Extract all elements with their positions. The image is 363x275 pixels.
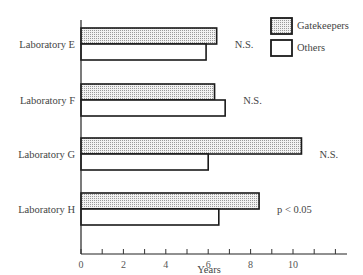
others-bar — [81, 209, 219, 225]
legend-label: Gatekeepers — [297, 20, 349, 31]
category-label: Laboratory H — [18, 204, 75, 215]
gatekeepers-bar — [81, 28, 217, 44]
bar-group: Laboratory GN.S. — [18, 138, 338, 170]
bar-group: Laboratory EN.S. — [19, 28, 253, 60]
category-label: Laboratory G — [18, 149, 75, 160]
significance-annotation: p < 0.05 — [277, 204, 312, 215]
x-tick-label: 2 — [121, 259, 126, 270]
x-tick-label: 8 — [248, 259, 253, 270]
others-bar — [81, 154, 208, 170]
bar-group: Laboratory Hp < 0.05 — [18, 193, 312, 225]
others-bar — [81, 44, 206, 60]
bar-chart: Laboratory EN.S.Laboratory FN.S.Laborato… — [0, 0, 363, 275]
bar-group: Laboratory FN.S. — [20, 84, 262, 116]
significance-annotation: N.S. — [319, 149, 338, 160]
category-label: Laboratory E — [19, 39, 75, 50]
significance-annotation: N.S. — [235, 39, 254, 50]
x-axis-title: Years — [197, 264, 220, 275]
legend-label: Others — [297, 42, 325, 53]
x-tick-label: 10 — [288, 259, 298, 270]
legend: GatekeepersOthers — [271, 18, 349, 56]
significance-annotation: N.S. — [243, 95, 262, 106]
x-tick-label: 4 — [163, 259, 168, 270]
others-legend-swatch — [271, 40, 292, 56]
others-bar — [81, 100, 225, 116]
plot-area: Laboratory EN.S.Laboratory FN.S.Laborato… — [18, 20, 347, 275]
gatekeepers-bar — [81, 138, 301, 154]
gatekeepers-bar — [81, 193, 259, 209]
gatekeepers-legend-swatch — [271, 18, 292, 34]
category-label: Laboratory F — [20, 95, 75, 106]
x-tick-label: 0 — [79, 259, 84, 270]
gatekeepers-bar — [81, 84, 215, 100]
